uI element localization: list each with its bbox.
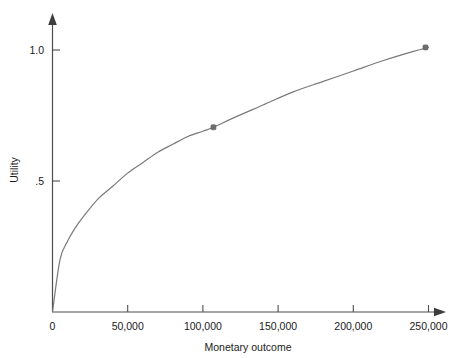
data-point-marker-1 [211, 125, 216, 130]
x-tick-label-50000: 50,000 [112, 320, 144, 332]
x-tick-label-100000: 100,000 [184, 320, 222, 332]
x-tick-label-250000: 250,000 [410, 320, 448, 332]
y-axis-title: Utility [8, 156, 20, 182]
x-tick-label-150000: 150,000 [259, 320, 297, 332]
utility-function-chart: 1.0 .5 0 50,000 100,000 150,000 200,000 … [0, 0, 459, 358]
data-point-markers [211, 45, 428, 130]
x-tick-label-0: 0 [50, 320, 56, 332]
x-axis-arrow-icon [434, 308, 446, 317]
utility-curve-path [53, 47, 429, 312]
y-axis-arrow-icon [48, 13, 57, 25]
x-axis-title: Monetary outcome [205, 341, 292, 353]
data-point-marker-2 [423, 45, 428, 50]
x-tick-label-200000: 200,000 [334, 320, 372, 332]
y-tick-label-0-5: .5 [35, 175, 44, 187]
chart-canvas: 1.0 .5 0 50,000 100,000 150,000 200,000 … [0, 0, 459, 358]
y-axis-ticks [53, 50, 61, 181]
x-axis-ticks [128, 305, 429, 312]
y-tick-label-1-0: 1.0 [29, 44, 44, 56]
